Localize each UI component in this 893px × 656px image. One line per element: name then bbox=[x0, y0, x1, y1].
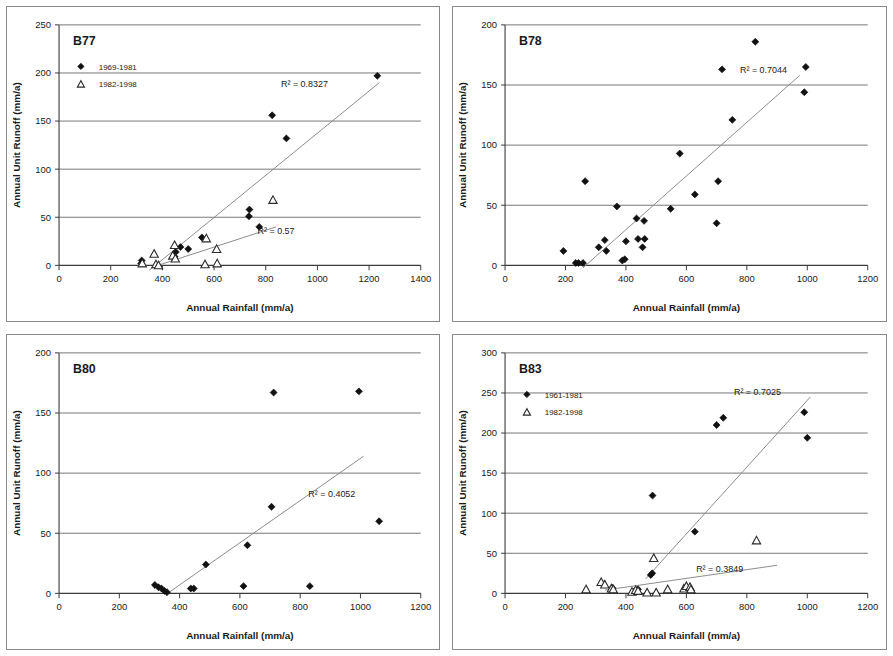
r-squared-label: R² = 0.7044 bbox=[740, 65, 787, 75]
panel-label: B83 bbox=[519, 362, 542, 376]
y-tick-label: 150 bbox=[35, 407, 51, 418]
panel-b83: 050100150200250300020040060080010001200A… bbox=[452, 334, 887, 650]
data-point-diamond bbox=[306, 583, 313, 590]
panel-label: B77 bbox=[73, 34, 96, 48]
data-point-triangle bbox=[582, 585, 590, 593]
legend-marker-triangle bbox=[523, 409, 530, 415]
y-tick-label: 200 bbox=[481, 19, 497, 30]
data-point-diamond bbox=[185, 246, 192, 253]
data-point-triangle bbox=[212, 245, 220, 253]
y-tick-label: 0 bbox=[492, 260, 497, 271]
x-tick-label: 600 bbox=[232, 601, 248, 612]
x-tick-label: 1000 bbox=[350, 601, 371, 612]
y-tick-label: 100 bbox=[35, 467, 51, 478]
x-tick-label: 200 bbox=[103, 273, 119, 284]
x-axis-title: Annual Rainfall (mm/a) bbox=[633, 302, 741, 313]
x-tick-label: 1000 bbox=[797, 601, 818, 612]
legend-marker-triangle bbox=[77, 81, 84, 87]
y-tick-label: 50 bbox=[41, 212, 51, 223]
x-axis-title: Annual Rainfall (mm/a) bbox=[186, 302, 294, 313]
data-point-triangle bbox=[663, 585, 671, 593]
chart-b77: 0501001502002500200400600800100012001400… bbox=[7, 7, 439, 321]
x-axis-title: Annual Rainfall (mm/a) bbox=[633, 630, 741, 641]
legend-label: 1969-1981 bbox=[99, 63, 138, 72]
data-point-diamond bbox=[691, 528, 698, 535]
x-tick-label: 0 bbox=[502, 273, 507, 284]
data-point-diamond bbox=[713, 220, 720, 227]
data-point-diamond bbox=[240, 583, 247, 590]
x-tick-label: 600 bbox=[679, 601, 695, 612]
data-point-diamond bbox=[560, 247, 567, 254]
x-tick-label: 1000 bbox=[797, 273, 818, 284]
x-axis-title: Annual Rainfall (mm/a) bbox=[186, 630, 294, 641]
chart-b80: 050100150200020040060080010001200Annual … bbox=[7, 335, 439, 649]
x-tick-label: 1200 bbox=[857, 601, 878, 612]
legend-label: 1961-1981 bbox=[545, 391, 584, 400]
four-panel-scatter-figure: 0501001502002500200400600800100012001400… bbox=[0, 0, 893, 656]
data-point-triangle bbox=[643, 588, 651, 596]
data-point-diamond bbox=[582, 178, 589, 185]
data-point-diamond bbox=[622, 238, 629, 245]
data-point-diamond bbox=[245, 213, 252, 220]
data-point-triangle bbox=[170, 241, 178, 249]
x-tick-label: 200 bbox=[111, 601, 127, 612]
y-tick-label: 150 bbox=[481, 467, 497, 478]
data-point-diamond bbox=[269, 112, 276, 119]
panel-b78: 050100150200020040060080010001200Annual … bbox=[452, 6, 887, 322]
y-tick-label: 100 bbox=[35, 164, 51, 175]
data-point-triangle bbox=[201, 260, 209, 268]
legend-label: 1982-1998 bbox=[545, 408, 584, 417]
data-point-diamond bbox=[246, 206, 253, 213]
y-axis-title: Annual Unit Runoff (mm/a) bbox=[457, 82, 468, 208]
legend-marker-diamond bbox=[524, 391, 530, 397]
x-tick-label: 400 bbox=[618, 273, 634, 284]
y-tick-label: 200 bbox=[481, 427, 497, 438]
y-tick-label: 200 bbox=[35, 347, 51, 358]
x-tick-label: 800 bbox=[292, 601, 308, 612]
data-point-triangle bbox=[213, 259, 221, 267]
data-point-diamond bbox=[720, 414, 727, 421]
x-tick-label: 1200 bbox=[359, 273, 380, 284]
y-tick-label: 50 bbox=[41, 528, 51, 539]
panel-label: B80 bbox=[73, 362, 96, 376]
data-point-diamond bbox=[613, 203, 620, 210]
data-point-diamond bbox=[641, 235, 648, 242]
data-point-diamond bbox=[270, 389, 277, 396]
data-point-diamond bbox=[639, 244, 646, 251]
x-tick-label: 800 bbox=[258, 273, 274, 284]
x-tick-label: 1000 bbox=[307, 273, 328, 284]
r-squared-label: R² = 0.7025 bbox=[734, 387, 781, 397]
x-tick-label: 600 bbox=[206, 273, 222, 284]
y-tick-label: 150 bbox=[35, 115, 51, 126]
legend-marker-diamond bbox=[78, 63, 84, 69]
data-point-diamond bbox=[283, 135, 290, 142]
data-point-diamond bbox=[355, 388, 362, 395]
data-point-diamond bbox=[595, 244, 602, 251]
x-tick-label: 800 bbox=[739, 273, 755, 284]
y-tick-label: 100 bbox=[481, 139, 497, 150]
data-point-diamond bbox=[268, 503, 275, 510]
x-tick-label: 200 bbox=[558, 273, 574, 284]
trendline bbox=[583, 75, 800, 267]
y-tick-label: 250 bbox=[35, 19, 51, 30]
y-axis-title: Annual Unit Runoff (mm/a) bbox=[11, 410, 22, 536]
y-tick-label: 0 bbox=[46, 588, 51, 599]
trendline bbox=[149, 83, 379, 271]
data-point-diamond bbox=[801, 409, 808, 416]
legend-label: 1982-1998 bbox=[99, 80, 138, 89]
x-tick-label: 200 bbox=[558, 601, 574, 612]
data-point-diamond bbox=[667, 205, 674, 212]
data-point-diamond bbox=[635, 235, 642, 242]
data-point-diamond bbox=[729, 116, 736, 123]
data-point-diamond bbox=[719, 66, 726, 73]
x-tick-label: 600 bbox=[679, 273, 695, 284]
r-squared-label: R² = 0.4052 bbox=[308, 489, 355, 499]
data-point-triangle bbox=[652, 588, 660, 596]
x-tick-label: 1200 bbox=[857, 273, 878, 284]
data-point-diamond bbox=[801, 89, 808, 96]
data-point-diamond bbox=[376, 518, 383, 525]
x-tick-label: 400 bbox=[172, 601, 188, 612]
y-axis-title: Annual Unit Runoff (mm/a) bbox=[457, 410, 468, 536]
r-squared-label: R² = 0.57 bbox=[258, 226, 295, 236]
y-tick-label: 300 bbox=[481, 347, 497, 358]
